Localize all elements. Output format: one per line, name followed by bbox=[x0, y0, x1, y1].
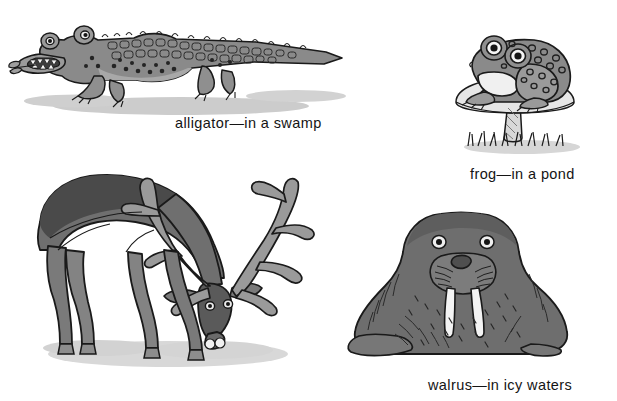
walrus-illustration bbox=[345, 204, 595, 370]
alligator-shadow bbox=[24, 90, 346, 115]
illustration-page: alligator—in a swamp bbox=[0, 0, 617, 401]
figure-deer bbox=[18, 158, 338, 373]
alligator-body bbox=[16, 34, 342, 84]
caption-frog: frog—in a pond bbox=[470, 166, 575, 182]
caption-alligator: alligator—in a swamp bbox=[175, 115, 322, 131]
deer-legs bbox=[47, 246, 202, 350]
figure-walrus bbox=[345, 204, 595, 369]
frog-illustration bbox=[438, 14, 608, 166]
figure-alligator bbox=[6, 8, 346, 118]
caption-walrus: walrus—in icy waters bbox=[428, 377, 572, 393]
figure-frog bbox=[438, 14, 608, 164]
deer-illustration bbox=[18, 158, 338, 374]
alligator-illustration bbox=[6, 8, 346, 120]
